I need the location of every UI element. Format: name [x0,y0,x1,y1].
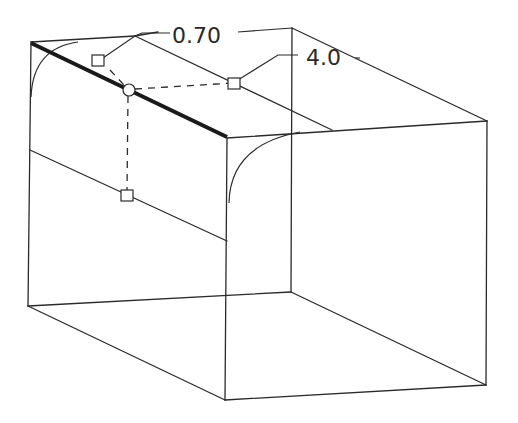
handle-end-square[interactable] [228,78,240,89]
handle-side-square[interactable] [121,190,133,201]
back-bottom-right-edge [291,292,486,385]
front-corner-vertical-edge [225,138,227,400]
back-bottom-left-edge [28,292,291,306]
dimension-label-4-0[interactable]: 4.0 [306,45,341,70]
front-left-vertical-edge [28,42,31,306]
top-back-left-edge [31,36,135,42]
leader-line-4-0 [238,55,298,80]
fillet-arc-left [31,42,78,97]
top-right-edge [227,121,487,138]
handle-start-square[interactable] [92,55,104,66]
bottom-front-right-edge [225,385,486,400]
dashed-line-vertical [127,96,128,190]
leader-line-0-70-tail [238,28,292,32]
right-vertical-edge [486,121,487,385]
bottom-front-left-edge [28,306,225,400]
dimension-label-0-70[interactable]: 0.70 [172,23,221,48]
back-vertical-edge [291,28,292,292]
fillet-arc-right [229,132,300,203]
dashed-line-horizontal [135,83,233,89]
fillet-diagram: 0.70 4.0 [0,0,518,423]
handle-mid-circle[interactable] [123,84,135,96]
top-back-right-edge [292,28,487,121]
